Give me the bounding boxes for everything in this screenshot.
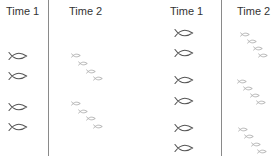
small-fish-icon	[78, 61, 88, 66]
right-divider	[221, 0, 222, 156]
large-fish-icon	[174, 123, 194, 133]
right-time2-label: Time 2	[237, 5, 270, 17]
small-fish-icon	[257, 149, 267, 154]
large-fish-icon	[8, 51, 28, 61]
small-fish-icon	[256, 100, 266, 105]
small-fish-icon	[237, 79, 247, 84]
left-time1-label: Time 1	[6, 5, 39, 17]
small-fish-icon	[244, 134, 254, 139]
small-fish-icon	[86, 69, 96, 74]
large-fish-icon	[174, 96, 194, 106]
large-fish-icon	[8, 71, 28, 81]
small-fish-icon	[251, 142, 261, 147]
large-fish-icon	[174, 75, 194, 85]
small-fish-icon	[71, 101, 81, 106]
small-fish-icon	[253, 46, 263, 51]
left-time2-label: Time 2	[69, 5, 102, 17]
small-fish-icon	[243, 86, 253, 91]
small-fish-icon	[240, 32, 250, 37]
small-fish-icon	[71, 53, 81, 58]
small-fish-icon	[93, 76, 103, 81]
small-fish-icon	[238, 127, 248, 132]
right-time1-label: Time 1	[170, 5, 203, 17]
large-fish-icon	[174, 143, 194, 153]
large-fish-icon	[8, 102, 28, 112]
small-fish-icon	[247, 39, 257, 44]
left-divider	[48, 0, 49, 156]
small-fish-icon	[250, 93, 260, 98]
small-fish-icon	[93, 124, 103, 129]
small-fish-icon	[86, 116, 96, 121]
small-fish-icon	[258, 53, 268, 58]
large-fish-icon	[8, 122, 28, 132]
large-fish-icon	[174, 28, 194, 38]
large-fish-icon	[174, 48, 194, 58]
small-fish-icon	[78, 109, 88, 114]
